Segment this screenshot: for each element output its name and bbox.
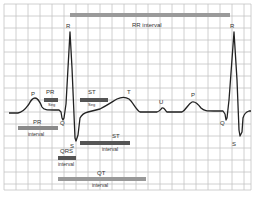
pr-segment-bar: PR Seg	[44, 89, 58, 107]
label-q1: Q	[60, 120, 65, 126]
svg-text:interval: interval	[28, 131, 44, 137]
ecg-grid	[4, 4, 251, 190]
label-q2: Q	[220, 120, 225, 126]
label-s1: S	[70, 143, 74, 149]
label-u: U	[159, 99, 163, 105]
svg-text:interval: interval	[92, 182, 108, 188]
label-t: T	[127, 89, 131, 95]
qrs-interval-bar: QRS interval	[58, 148, 76, 167]
svg-text:ST: ST	[112, 133, 120, 139]
qt-interval-bar: QT interval	[58, 170, 146, 188]
svg-text:QT: QT	[97, 170, 106, 176]
wave-labels: P R Q S T U P R Q S	[31, 23, 236, 149]
svg-text:Seg: Seg	[88, 102, 95, 107]
label-p2: P	[191, 92, 195, 98]
label-p1: P	[31, 91, 35, 97]
svg-text:interval: interval	[102, 146, 118, 152]
rr-interval-bar: RR interval	[70, 13, 230, 28]
ecg-trace	[9, 32, 251, 141]
st-segment-bar: ST Seg	[80, 89, 108, 107]
label-s2: S	[232, 141, 236, 147]
svg-text:Seg: Seg	[48, 102, 55, 107]
svg-text:RR interval: RR interval	[132, 22, 162, 28]
svg-text:PR: PR	[33, 119, 42, 125]
ecg-diagram: RR interval PR Seg ST Seg PR interval ST…	[0, 0, 253, 205]
label-r2: R	[230, 23, 235, 29]
svg-text:interval: interval	[58, 161, 74, 167]
label-r1: R	[66, 23, 71, 29]
svg-text:ST: ST	[88, 89, 96, 95]
svg-text:PR: PR	[46, 89, 55, 95]
